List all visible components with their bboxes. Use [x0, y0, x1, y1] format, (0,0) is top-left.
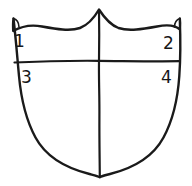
quadrant-label-3: 3 [21, 69, 32, 86]
vertical-divider-line [99, 10, 100, 177]
shield-outline-path [13, 10, 180, 178]
quadrant-label-4: 4 [161, 69, 172, 86]
quadrant-label-1: 1 [14, 33, 25, 50]
shield-figure [0, 0, 192, 186]
quadrant-label-2: 2 [163, 35, 174, 52]
drawing-canvas: 1 2 3 4 [0, 0, 192, 186]
